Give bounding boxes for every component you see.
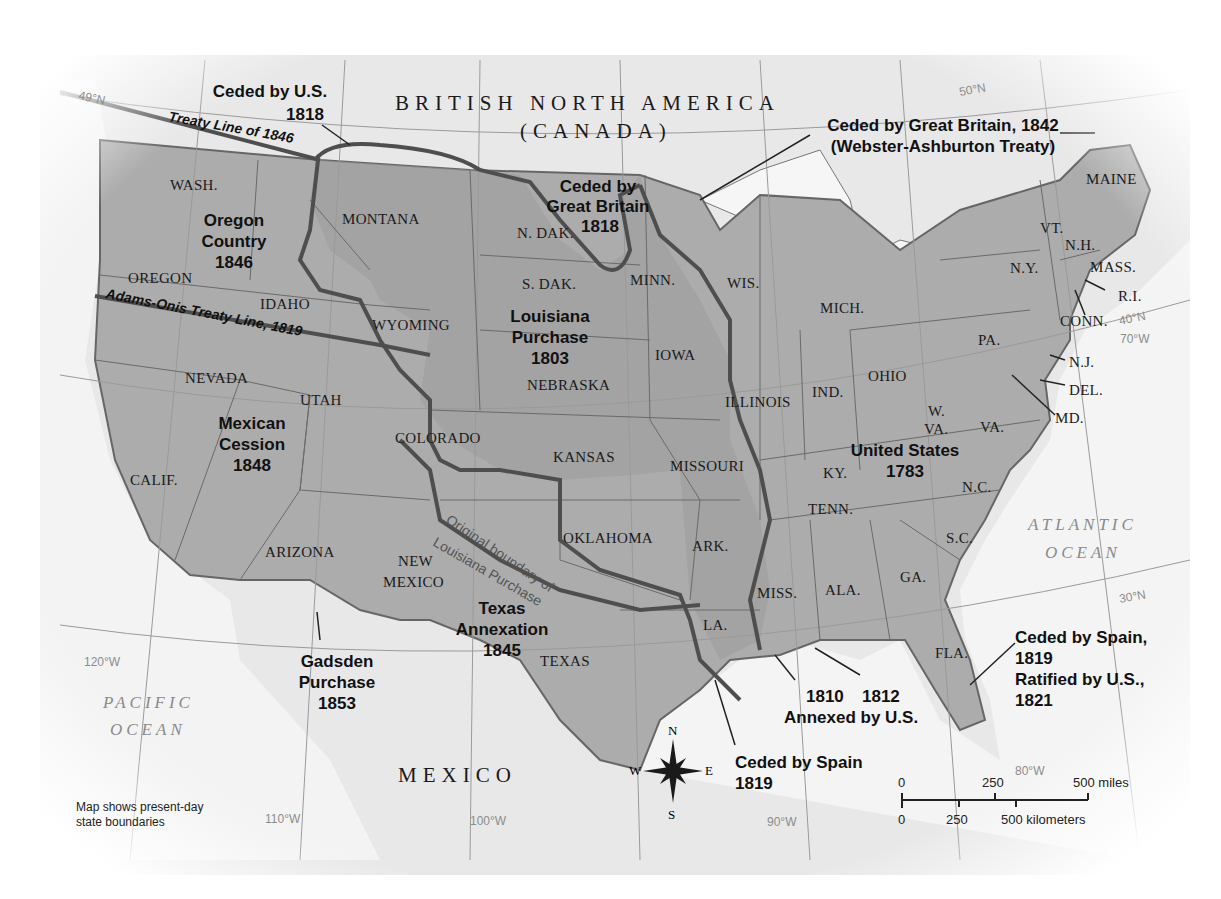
state-ga: GA. [900,569,926,585]
region-texas-annexation-year: 1845 [483,641,521,660]
state-wyoming: WYOMING [372,317,450,333]
state-new-mexico-2: MEXICO [383,574,444,590]
coord-100w: 100°W [470,814,507,828]
state-nj: N.J. [1069,354,1094,370]
region-ceded-spain-florida: Ceded by Spain, [1015,628,1147,647]
state-nevada: NEVADA [185,370,248,386]
coord-110w: 110°W [265,812,301,826]
scale-miles-0: 0 [898,775,905,790]
state-miss: MISS. [757,585,797,601]
region-ceded-gb-1818-2: Great Britain [547,197,650,216]
state-nc: N.C. [962,479,992,495]
state-idaho: IDAHO [260,296,310,312]
state-illinois: ILLINOIS [725,394,791,410]
state-wva-2: VA. [924,421,948,437]
coord-90w: 90°W [767,815,797,829]
region-ceded-gb-1818-year: 1818 [581,217,619,236]
state-missouri: MISSOURI [670,458,744,474]
ocean-label-pacific: PACIFIC [102,693,194,712]
state-ark: ARK. [692,538,729,554]
state-del: DEL. [1069,382,1103,398]
state-texas: TEXAS [540,653,590,669]
region-gadsden-purchase-year: 1853 [318,694,356,713]
state-vt: VT. [1040,220,1064,236]
state-calif: CALIF. [130,472,178,488]
state-ky: KY. [823,465,847,481]
map-note: Map shows present-day [76,800,203,814]
state-utah: UTAH [300,392,342,408]
state-sdak: S. DAK. [522,276,576,292]
region-united-states-year: 1783 [886,462,924,481]
country-label-canada: (CANADA) [520,119,672,143]
state-md: MD. [1055,410,1084,426]
scale-km-250: 250 [946,812,968,827]
us-territorial-growth-map: BRITISH NORTH AMERICA (CANADA) MEXICO PA… [0,0,1221,899]
compass-e: E [705,763,713,778]
scale-km-0: 0 [898,812,905,827]
state-ri: R.I. [1118,288,1142,304]
state-conn: CONN. [1060,313,1108,329]
region-united-states: United States [851,441,960,460]
ocean-label-atlantic: ATLANTIC [1027,515,1137,534]
state-oklahoma: OKLAHOMA [563,530,653,546]
region-annexed-1810: 1810 [806,687,844,706]
country-label-british-na: BRITISH NORTH AMERICA [395,91,780,115]
state-wash: WASH. [170,177,218,193]
map-note-2: state boundaries [76,815,165,829]
state-mich: MICH. [820,300,864,316]
region-annexed-by-us: Annexed by U.S. [784,708,918,727]
region-ratified-by-us: Ratified by U.S., [1015,670,1144,689]
region-oregon-country: Oregon [204,211,264,230]
state-nebraska: NEBRASKA [527,377,610,393]
region-ceded-us-1818-year: 1818 [286,105,324,124]
state-tenn: TENN. [808,501,853,517]
region-ratified-year: 1821 [1015,691,1053,710]
region-annexed-1812: 1812 [862,687,900,706]
region-ceded-spain-1819-year: 1819 [735,774,773,793]
state-fla: FLA. [935,645,968,661]
region-louisiana-purchase-year: 1803 [531,349,569,368]
country-label-mexico: MEXICO [398,763,517,787]
region-webster-ashburton: (Webster-Ashburton Treaty) [831,137,1056,156]
compass-n: N [668,723,678,738]
state-ny: N.Y. [1010,260,1038,276]
state-iowa: IOWA [655,347,695,363]
state-ind: IND. [812,384,844,400]
scale-miles-250: 250 [982,775,1004,790]
scale-km-500: 500 kilometers [1001,812,1086,827]
region-mexican-cession-year: 1848 [233,456,271,475]
region-texas-annexation: Texas [479,599,526,618]
region-oregon-country-year: 1846 [215,253,253,272]
state-va: VA. [980,419,1004,435]
state-maine: MAINE [1086,171,1137,187]
region-oregon-country-2: Country [201,232,267,251]
state-colorado: COLORADO [395,430,481,446]
state-mass: MASS. [1090,259,1136,275]
compass-w: W [629,763,642,778]
region-gadsden-purchase: Gadsden [301,652,374,671]
state-arizona: ARIZONA [265,544,335,560]
region-ceded-spain-florida-year: 1819 [1015,649,1053,668]
state-oregon: OREGON [128,270,192,286]
state-nh: N.H. [1065,237,1095,253]
region-ceded-us-1818: Ceded by U.S. [213,82,327,101]
region-louisiana-purchase-2: Purchase [512,328,589,347]
coord-80w: 80°W [1015,764,1045,778]
state-ala: ALA. [825,582,861,598]
ocean-label-pacific-2: OCEAN [110,720,186,739]
compass-s: S [668,807,675,822]
region-ceded-gb-1842: Ceded by Great Britain, 1842 [827,116,1058,135]
state-kansas: KANSAS [553,449,615,465]
coord-70w: 70°W [1120,332,1150,346]
state-sc: S.C. [946,530,973,546]
region-texas-annexation-2: Annexation [456,620,549,639]
region-mexican-cession: Mexican [218,414,285,433]
region-gadsden-purchase-2: Purchase [299,673,376,692]
state-ohio: OHIO [868,368,907,384]
scale-miles-500: 500 miles [1073,775,1129,790]
state-ndak: N. DAK. [517,225,574,241]
state-pa: PA. [978,332,1000,348]
region-ceded-spain-1819: Ceded by Spain [735,753,863,772]
region-mexican-cession-2: Cession [219,435,285,454]
region-ceded-gb-1818: Ceded by [560,177,637,196]
